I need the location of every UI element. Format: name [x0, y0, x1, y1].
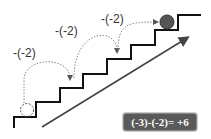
staircase	[14, 15, 201, 128]
formula-box: (-3)-(-2)= +6	[123, 113, 197, 131]
step-label-3: -(-2)	[101, 12, 124, 26]
start-marker-icon	[21, 104, 34, 117]
step-label-1: -(-2)	[13, 46, 36, 60]
step-label-2: -(-2)	[55, 24, 78, 38]
jump-arc-2	[74, 35, 117, 78]
jump-arc-1	[24, 62, 70, 103]
end-ball-icon	[160, 15, 174, 29]
